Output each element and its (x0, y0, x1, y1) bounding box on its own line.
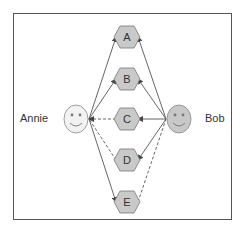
node-B: B (114, 68, 140, 90)
edge-annie-E (89, 119, 116, 202)
svg-text:B: B (123, 73, 130, 85)
node-D: D (114, 149, 140, 171)
edge-annie-A (89, 37, 116, 119)
edge-bob-A (138, 37, 166, 119)
edge-bob-D (138, 119, 166, 160)
edge-E-bob (138, 119, 166, 202)
node-A: A (114, 26, 140, 48)
svg-text:E: E (123, 196, 130, 208)
edge-D-annie (89, 119, 116, 160)
smiley-face-icon-bob (167, 105, 191, 133)
bob-label: Bob (205, 112, 225, 124)
annie-label: Annie (20, 112, 48, 124)
svg-text:A: A (123, 31, 131, 43)
nodes: ABCDE (114, 26, 140, 213)
edge-annie-B (89, 79, 116, 119)
node-C: C (114, 108, 140, 130)
svg-text:D: D (123, 154, 131, 166)
node-E: E (114, 191, 140, 213)
edge-bob-B (138, 79, 166, 119)
smiley-face-icon-annie (64, 105, 88, 133)
svg-text:C: C (123, 113, 131, 125)
